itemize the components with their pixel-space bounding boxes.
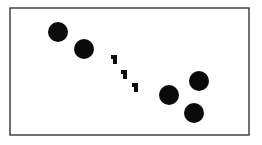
diagram-canvas <box>0 0 262 145</box>
filled-circle-1 <box>48 22 68 42</box>
diagram-frame <box>10 8 249 135</box>
filled-circle-3 <box>159 85 179 105</box>
filled-circle-2 <box>74 39 94 59</box>
filled-circle-5 <box>184 103 204 123</box>
diagram-svg <box>0 0 262 145</box>
filled-circle-4 <box>189 71 209 91</box>
